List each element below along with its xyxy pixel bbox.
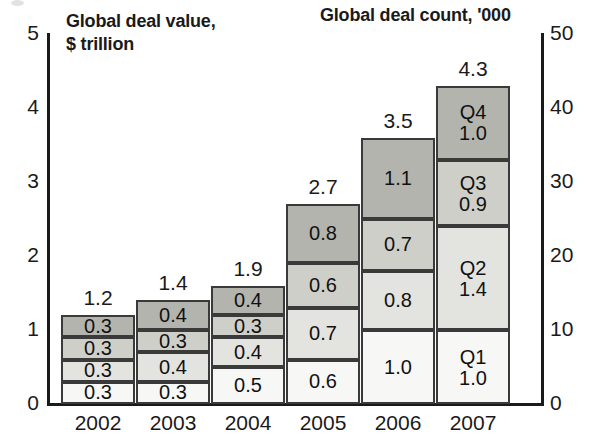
y-axis-left-tick: 3 — [3, 170, 39, 191]
bar-group: 2.70.60.70.60.8 — [286, 204, 360, 404]
bar-total-label: 1.9 — [211, 258, 285, 279]
bar-group: 1.20.30.30.30.3 — [61, 315, 135, 404]
bar-segment-q1: 0.6 — [286, 360, 360, 404]
segment-value-label: 0.3 — [84, 382, 112, 403]
bar-total-label: 3.5 — [361, 110, 435, 131]
segment-value-label: 0.4 — [159, 357, 187, 378]
y-axis-right-tick: 40 — [550, 96, 591, 117]
bar-group: 4.3Q11.0Q21.4Q30.9Q41.0 — [436, 86, 510, 404]
y-axis-left-tick: 1 — [3, 318, 39, 339]
y-axis-right-tick: 30 — [550, 170, 591, 191]
segment-value-label: 0.7 — [384, 234, 412, 255]
plot-area: 1.20.30.30.30.31.40.30.40.30.41.90.50.40… — [47, 33, 544, 404]
y-axis-left-tick: 2 — [3, 244, 39, 265]
bar-segment-q3: 0.3 — [136, 330, 210, 352]
bar-segment-q2: Q21.4 — [436, 226, 510, 330]
bar-segment-q2: 0.7 — [286, 308, 360, 360]
bar-segment-q3: 0.6 — [286, 263, 360, 307]
segment-value-label: 0.5 — [234, 375, 262, 396]
bar-segment-q3: 0.7 — [361, 219, 435, 271]
bar-group: 3.51.00.80.71.1 — [361, 138, 435, 404]
bar-total-label: 1.4 — [136, 272, 210, 293]
segment-value-label: 1.0 — [384, 357, 412, 378]
segment-value-label: 0.3 — [84, 360, 112, 381]
bar-group: 1.90.50.40.30.4 — [211, 286, 285, 404]
segment-value-label: 1.1 — [384, 168, 412, 189]
chart-title-right: Global deal count, '000 — [320, 4, 511, 27]
y-axis-right-tick: 0 — [550, 392, 591, 413]
chart-container: Global deal value, $ trillion Global dea… — [0, 0, 591, 443]
x-axis-year-label: 2007 — [428, 411, 518, 435]
bar-segment-q4: 0.4 — [136, 300, 210, 330]
y-axis-right-tick: 20 — [550, 244, 591, 265]
y-axis-right-tick: 10 — [550, 318, 591, 339]
segment-value-label: 0.3 — [84, 316, 112, 337]
segment-value-label: 0.3 — [84, 338, 112, 359]
segment-value-label: 0.8 — [384, 290, 412, 311]
bar-total-label: 4.3 — [436, 58, 510, 79]
bar-segment-q1: 0.5 — [211, 367, 285, 404]
segment-value-label: 1.4 — [459, 279, 487, 300]
segment-quarter-label: Q3 — [460, 172, 487, 194]
bar-group: 1.40.30.40.30.4 — [136, 300, 210, 404]
bar-segment-q2: 0.8 — [361, 271, 435, 330]
bar-segment-q4: 0.4 — [211, 286, 285, 316]
bar-segment-q3: 0.3 — [211, 315, 285, 337]
bar-segment-q2: 0.3 — [61, 360, 135, 382]
bar-segment-q1: 0.3 — [61, 382, 135, 404]
segment-value-label: 1.0 — [459, 123, 487, 144]
bar-segment-q3: Q30.9 — [436, 160, 510, 227]
y-axis-left-tick: 4 — [3, 96, 39, 117]
bar-segment-q2: 0.4 — [211, 337, 285, 367]
segment-value-label: 1.0 — [459, 368, 487, 389]
bar-segment-q2: 0.4 — [136, 352, 210, 382]
segment-value-label: 0.3 — [234, 316, 262, 337]
scan-artifact — [11, 0, 24, 6]
segment-value-label: 0.6 — [309, 275, 337, 296]
bar-segment-q3: 0.3 — [61, 337, 135, 359]
bar-total-label: 1.2 — [61, 287, 135, 308]
bar-total-label: 2.7 — [286, 176, 360, 197]
segment-value-label: 0.4 — [159, 305, 187, 326]
segment-quarter-label: Q2 — [460, 257, 487, 279]
segment-value-label: 0.9 — [459, 194, 487, 215]
segment-value-label: 0.4 — [234, 290, 262, 311]
bar-segment-q4: 1.1 — [361, 138, 435, 219]
bar-segment-q4: 0.8 — [286, 204, 360, 263]
bar-segment-q4: 0.3 — [61, 315, 135, 337]
segment-value-label: 0.4 — [234, 342, 262, 363]
segment-quarter-label: Q4 — [460, 101, 487, 123]
bar-segment-q1: 0.3 — [136, 382, 210, 404]
y-axis-right-tick: 50 — [550, 22, 591, 43]
y-axis-left-tick: 0 — [3, 392, 39, 413]
bar-segment-q1: Q11.0 — [436, 330, 510, 404]
segment-value-label: 0.3 — [159, 331, 187, 352]
segment-value-label: 0.6 — [309, 371, 337, 392]
bar-segment-q1: 1.0 — [361, 330, 435, 404]
segment-value-label: 0.3 — [159, 382, 187, 403]
segment-value-label: 0.8 — [309, 223, 337, 244]
segment-quarter-label: Q1 — [460, 346, 487, 368]
y-axis-left-tick: 5 — [3, 22, 39, 43]
segment-value-label: 0.7 — [309, 323, 337, 344]
bar-segment-q4: Q41.0 — [436, 86, 510, 160]
